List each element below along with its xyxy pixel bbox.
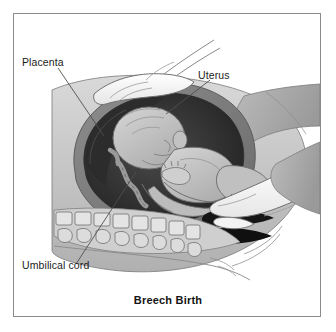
label-placenta: Placenta — [22, 56, 64, 68]
label-uterus: Uterus — [198, 69, 230, 81]
figure-title: Breech Birth — [0, 294, 336, 306]
label-umbilical-cord: Umbilical cord — [22, 259, 89, 271]
illustration-page: Placenta Uterus Umbilical cord Breech Bi… — [0, 0, 336, 332]
